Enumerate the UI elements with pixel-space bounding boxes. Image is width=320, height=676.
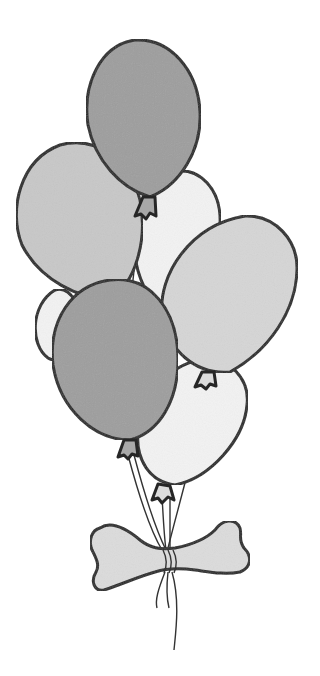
balloon-bunch-svg [0, 0, 320, 676]
balloon-illustration [0, 0, 320, 676]
front-balloon-knot [118, 440, 138, 459]
